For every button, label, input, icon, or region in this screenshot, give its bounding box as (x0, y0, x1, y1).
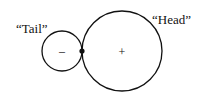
tail-label: “Tail” (16, 21, 48, 36)
head-label: “Head” (152, 12, 191, 27)
plus-sign: + (119, 45, 126, 59)
contact-point (79, 48, 84, 53)
minus-sign: – (58, 44, 66, 58)
dipole-diagram: – + “Tail” “Head” (0, 0, 204, 95)
